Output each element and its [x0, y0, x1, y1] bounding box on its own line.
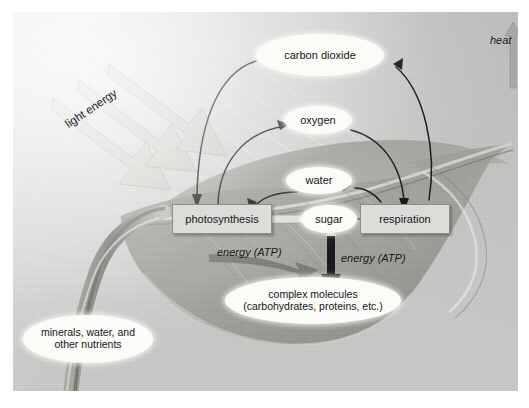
node-photosynthesis[interactable]: photosynthesis [172, 204, 272, 234]
node-oxygen[interactable]: oxygen [284, 106, 352, 134]
label-energy-atp-left: energy (ATP) [217, 246, 282, 258]
node-carbon-dioxide[interactable]: carbon dioxide [256, 34, 384, 76]
node-oxygen-label: oxygen [300, 114, 335, 126]
node-minerals-line2: other nutrients [54, 339, 121, 351]
node-respiration-label: respiration [379, 213, 430, 225]
node-complex-molecules-line1: complex molecules [268, 289, 357, 301]
node-sugar[interactable]: sugar [301, 205, 357, 233]
node-carbon-dioxide-label: carbon dioxide [284, 49, 356, 61]
label-heat: heat [490, 34, 511, 46]
node-complex-molecules-line2: (carbohydrates, proteins, etc.) [243, 301, 382, 313]
label-energy-atp-right: energy (ATP) [341, 252, 406, 264]
node-water-label: water [306, 174, 333, 186]
leaf-photograph: carbon dioxide oxygen water sugar photos… [13, 12, 518, 391]
node-minerals-water-nutrients[interactable]: minerals, water, and other nutrients [23, 315, 153, 363]
node-water[interactable]: water [286, 167, 352, 194]
diagram-canvas: carbon dioxide oxygen water sugar photos… [0, 0, 529, 408]
node-complex-molecules[interactable]: complex molecules (carbohydrates, protei… [225, 277, 401, 324]
node-photosynthesis-label: photosynthesis [185, 213, 258, 225]
node-respiration[interactable]: respiration [360, 204, 450, 234]
node-sugar-label: sugar [315, 213, 343, 225]
